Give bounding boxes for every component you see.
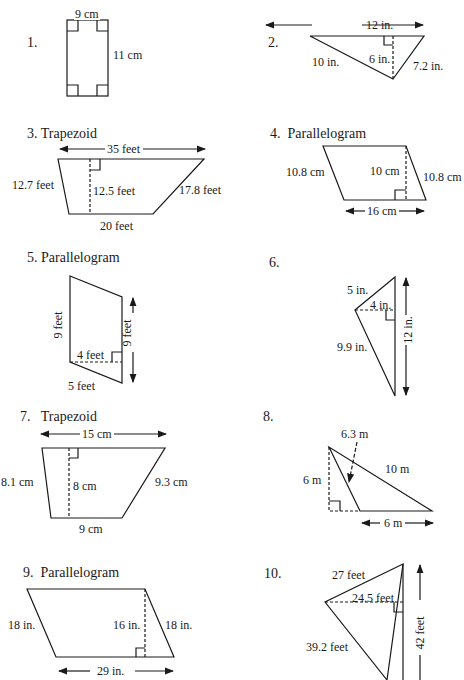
problem-7-height-label: 8 cm: [73, 480, 97, 492]
problem-5-right-label: 9 feet: [121, 320, 133, 347]
problem-3-top-label: 35 feet: [107, 143, 140, 155]
problem-2-base-label: 12 in.: [366, 19, 393, 31]
problem-3-height-label: 12.5 feet: [93, 185, 135, 197]
figure-1-rectangle: [67, 20, 108, 96]
figure-9-parallelogram: [27, 589, 174, 671]
problem-5-shape-name: Parallelogram: [41, 250, 120, 265]
problem-5-left-label: 9 feet: [52, 312, 64, 339]
problem-3-left-label: 12.7 feet: [12, 179, 54, 191]
figure-8-triangle: [329, 442, 433, 523]
problem-9-title: 9. Parallelogram: [23, 566, 119, 580]
problem-7-right-label: 9.3 cm: [155, 476, 188, 488]
problem-2-right-label: 7.2 in.: [413, 60, 443, 72]
problem-5-number: 5.: [27, 250, 38, 265]
problem-2-number: 2.: [268, 36, 279, 50]
problem-1-number: 1.: [27, 36, 38, 50]
problem-5-bottom-label: 5 feet: [68, 380, 95, 392]
problem-7-title: 7. Trapezoid: [20, 410, 97, 424]
problem-7-shape-name: Trapezoid: [41, 409, 97, 424]
problem-4-bottom-label: 16 cm: [367, 205, 397, 217]
problem-10-height-label: 24.5 feet: [352, 592, 394, 604]
figure-2-triangle: [266, 25, 424, 79]
problem-10-bottom-label: 39.2 feet: [306, 641, 348, 653]
problem-8-base-label: 6 m: [384, 517, 402, 529]
problem-10-number: 10.: [264, 567, 282, 581]
problem-4-title: 4. Parallelogram: [270, 127, 366, 141]
problem-6-number: 6.: [269, 256, 280, 270]
problem-7-left-label: 8.1 cm: [1, 476, 34, 488]
problem-1-right-label: 11 cm: [113, 49, 142, 61]
problem-9-height-label: 16 in.: [113, 619, 140, 631]
figure-4-parallelogram: [323, 146, 426, 211]
problem-3-shape-name: Trapezoid: [41, 126, 97, 141]
problem-6-base-label: 12 in.: [402, 316, 414, 343]
problem-8-hyp-label: 10 m: [385, 463, 409, 475]
problem-5-title: 5. Parallelogram: [27, 251, 120, 265]
problem-9-shape-name: Parallelogram: [41, 565, 120, 580]
problem-4-shape-name: Parallelogram: [288, 126, 367, 141]
problem-7-bottom-label: 9 cm: [79, 523, 103, 535]
problem-7-top-label: 15 cm: [82, 428, 112, 440]
problem-8-height-label: 6 m: [303, 474, 321, 486]
problem-3-bottom-label: 20 feet: [100, 220, 133, 232]
problem-2-height-label: 6 in.: [369, 53, 390, 65]
problem-9-right-label: 18 in.: [165, 619, 192, 631]
problem-6-top-label: 5 in.: [347, 284, 368, 296]
problem-6-height-label: 4 in.: [370, 299, 391, 311]
problem-9-left-label: 18 in.: [8, 619, 35, 631]
problem-8-side-label: 6.3 m: [341, 428, 368, 440]
problem-1-top-label: 9 cm: [74, 8, 100, 20]
problem-10-top-label: 27 feet: [332, 569, 365, 581]
figure-7-trapezoid: [41, 434, 166, 518]
problem-7-number: 7.: [20, 409, 31, 424]
problem-9-number: 9.: [23, 565, 34, 580]
problem-3-title: 3. Trapezoid: [27, 127, 97, 141]
problem-3-number: 3.: [27, 126, 38, 141]
problem-9-bottom-label: 29 in.: [97, 665, 124, 677]
problem-10-base-label: 42 feet: [414, 617, 426, 650]
problem-4-number: 4.: [270, 126, 281, 141]
problem-3-right-label: 17.8 feet: [179, 184, 221, 196]
problem-6-bottom-label: 9.9 in.: [337, 341, 367, 353]
figure-3-trapezoid: [58, 149, 205, 214]
problem-2-left-label: 10 in.: [312, 56, 339, 68]
problem-4-right-label: 10.8 cm: [423, 171, 462, 183]
problem-4-height-label: 10 cm: [370, 165, 400, 177]
problem-5-height-label: 4 feet: [77, 349, 104, 361]
problem-8-number: 8.: [263, 410, 274, 424]
problem-4-left-label: 10.8 cm: [286, 166, 325, 178]
